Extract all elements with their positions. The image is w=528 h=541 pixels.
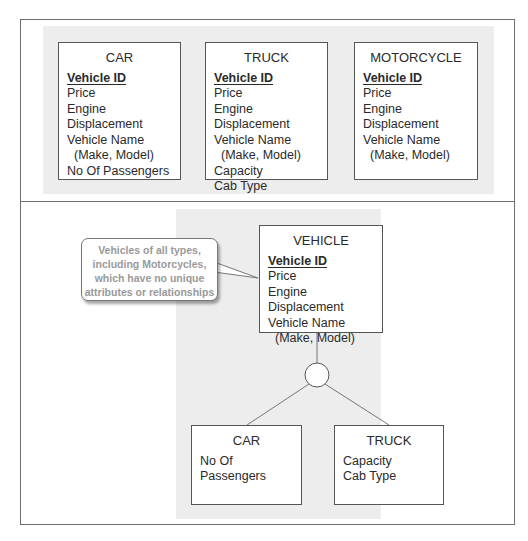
callout-note: Vehicles of all types, including Motorcy… xyxy=(81,238,218,301)
callout-line: which have no unique xyxy=(82,271,217,285)
entity-car-subtype: CAR No Of Passengers xyxy=(191,425,302,505)
attribute: Price xyxy=(268,269,382,285)
attribute: Capacity xyxy=(343,454,443,470)
entity-title: TRUCK xyxy=(335,433,443,449)
attribute: (Make, Model) xyxy=(268,331,382,347)
callout-line: including Motorcycles, xyxy=(82,257,217,271)
callout-line: attributes or relationships xyxy=(82,285,217,299)
entity-title: CAR xyxy=(192,433,301,449)
entity-truck-subtype: TRUCK Capacity Cab Type xyxy=(334,425,444,505)
entity-vehicle-supertype: VEHICLE Vehicle ID Price Engine Displace… xyxy=(259,225,383,333)
subtype-circle-icon xyxy=(305,363,329,387)
callout-line: Vehicles of all types, xyxy=(82,243,217,257)
attribute: Engine Displacement xyxy=(268,285,382,316)
attribute: No Of Passengers xyxy=(200,454,301,485)
attribute: Vehicle Name xyxy=(268,316,382,332)
attribute: Cab Type xyxy=(343,469,443,485)
entity-title: VEHICLE xyxy=(260,233,382,249)
primary-key: Vehicle ID xyxy=(268,254,382,270)
